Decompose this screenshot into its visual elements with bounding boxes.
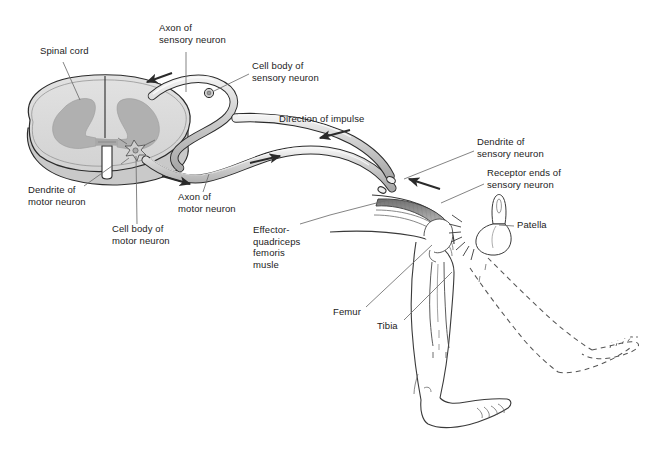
impulse-arrows <box>147 73 440 189</box>
receptor-ends-of-sensory-neuron-label: Receptor ends of sensory neuron <box>487 167 561 190</box>
femur-label: Femur <box>333 306 361 318</box>
patella-label: Patella <box>517 219 547 231</box>
knee-motion-specks <box>479 264 486 282</box>
reflex-arc-diagram: Spinal cord Axon of sensory neuron Cell … <box>0 0 652 452</box>
kicked-foot-toes <box>610 336 638 348</box>
tibia-label: Tibia <box>377 320 398 332</box>
impulse-arrow-sensory-inbound <box>147 73 172 82</box>
spinal-cord-label: Spinal cord <box>40 45 89 57</box>
cell-body-of-motor-neuron-label: Cell body of motor neuron <box>112 223 170 246</box>
sensory-cell-body-ganglion <box>204 88 213 97</box>
leg-kicked-outline <box>470 258 639 373</box>
effector-quadriceps-femoris-musle-label: Effector- quadriceps femoris musle <box>253 224 300 270</box>
cell-body-of-sensory-neuron-label: Cell body of sensory neuron <box>252 60 319 83</box>
leader-dendrite-sensory <box>404 151 474 179</box>
dendrite-of-motor-neuron-label: Dendrite of motor neuron <box>28 184 86 207</box>
impulse-arrow-from-receptor <box>409 179 440 189</box>
axon-of-sensory-neuron-label: Axon of sensory neuron <box>159 22 226 45</box>
tibia-bone <box>430 262 449 358</box>
direction-of-impulse-label: Direction of impulse <box>279 113 364 125</box>
diagram-canvas <box>0 0 652 452</box>
patella-bone <box>476 195 511 256</box>
leader-receptor-ends <box>441 184 484 203</box>
dendrite-of-sensory-neuron-label: Dendrite of sensory neuron <box>477 136 544 159</box>
axon-of-motor-neuron-label: Axon of motor neuron <box>178 191 236 214</box>
leader-effector-quadriceps <box>300 200 388 224</box>
leader-femur <box>366 245 432 307</box>
